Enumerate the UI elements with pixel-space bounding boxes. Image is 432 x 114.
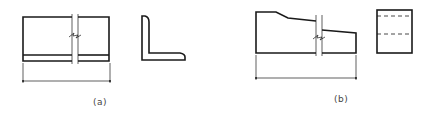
panel-a-elevation [22,14,111,83]
technical-drawing [0,0,432,114]
panel-a-angle-section [142,16,185,60]
panel-b-label: (b) [334,94,348,104]
panel-b-elevation [255,12,357,80]
panel-a-label: (a) [93,97,107,107]
panel-b-side-view [377,10,412,53]
